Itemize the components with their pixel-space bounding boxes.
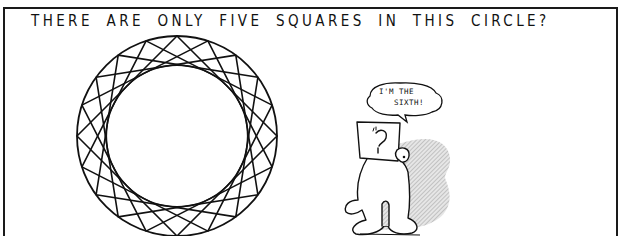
inner-circle <box>106 65 247 206</box>
speech-line-2: SIXTH! <box>394 98 424 108</box>
illustration <box>0 0 625 236</box>
square-4 <box>96 55 258 217</box>
square-3 <box>96 55 258 217</box>
speech-line-1: I'M THE <box>379 87 414 97</box>
square-head-character <box>345 122 417 235</box>
square-5 <box>82 41 272 231</box>
square-2 <box>82 41 272 231</box>
ground-line <box>360 234 420 235</box>
